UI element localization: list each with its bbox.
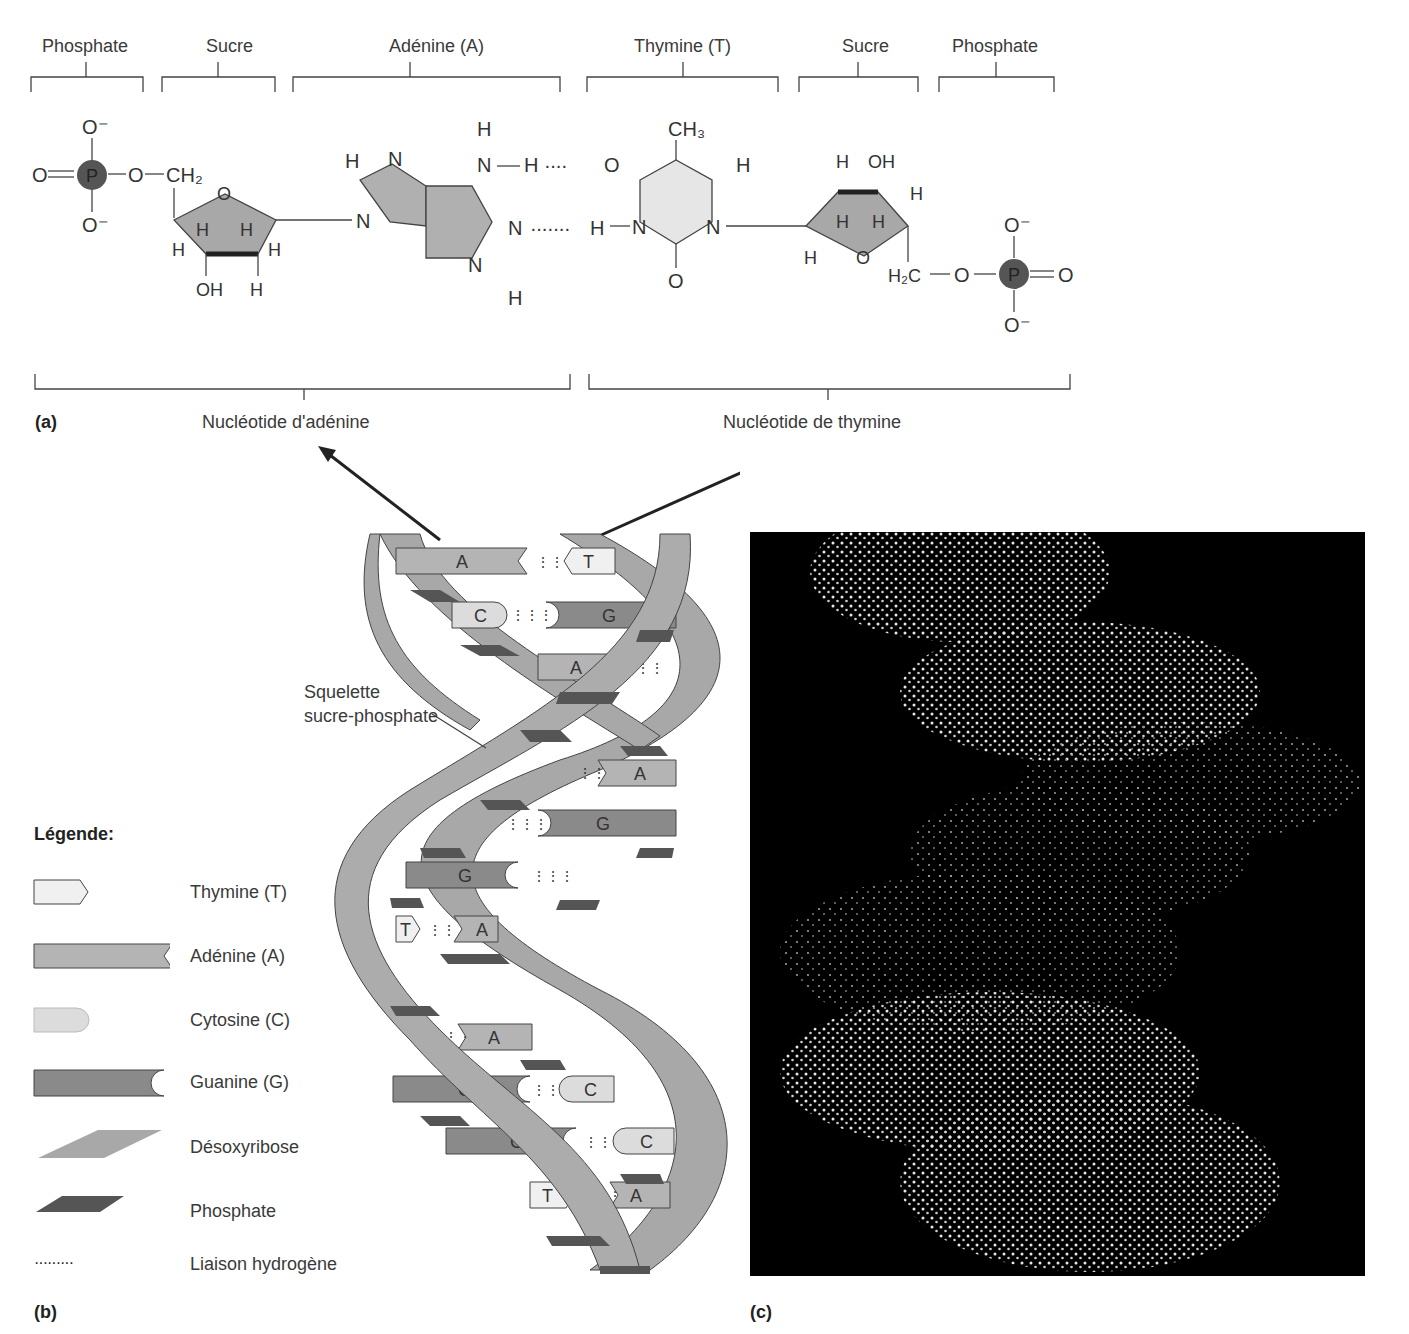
svg-text:A: A [476, 920, 488, 940]
deoxyribose-right: H OH H H H H O H₂C O [804, 152, 970, 286]
svg-text:H: H [804, 248, 817, 268]
svg-text:G: G [602, 606, 616, 626]
bottom-brackets [35, 374, 1070, 400]
svg-text:H: H [508, 287, 522, 309]
svg-text:G: G [596, 814, 610, 834]
svg-text:N: N [706, 216, 720, 238]
molecule-diagram: P O⁻ O⁻ O O CH₂ O H H H H OH H [0, 0, 1100, 400]
guanine-shape-icon [34, 1070, 164, 1096]
label-thymine-nucleotide: Nucléotide de thymine [723, 412, 901, 433]
svg-text:H: H [524, 154, 538, 176]
svg-text:T: T [400, 920, 411, 940]
svg-text:OH: OH [868, 152, 895, 172]
svg-text:H: H [872, 212, 885, 232]
svg-text:C: C [584, 1080, 597, 1100]
svg-text:H: H [736, 154, 750, 176]
legend-swatches: ········· [30, 870, 170, 1270]
svg-text:⋮⋮⋮: ⋮⋮⋮ [511, 607, 553, 623]
svg-text:O: O [32, 164, 48, 186]
svg-text:N: N [477, 154, 491, 176]
svg-text:A: A [488, 1028, 500, 1048]
cytosine-shape-icon [34, 1008, 89, 1032]
svg-text:A: A [570, 658, 582, 678]
legend-label-thymine: Thymine (T) [190, 882, 287, 903]
svg-text:O: O [856, 248, 870, 268]
svg-text:A: A [630, 1186, 642, 1206]
adenine-shape-icon [34, 944, 170, 968]
svg-text:⋮⋮⋮: ⋮⋮⋮ [506, 816, 548, 832]
svg-text:G: G [458, 866, 472, 886]
backbone-label-line2: sucre-phosphate [304, 706, 438, 727]
svg-text:H: H [590, 217, 604, 239]
svg-text:P: P [1008, 265, 1020, 285]
legend-label-guanine: Guanine (G) [190, 1072, 289, 1093]
svg-text:O⁻: O⁻ [82, 214, 109, 236]
phosphate-shape-icon [36, 1196, 124, 1212]
phosphate-group-right: P O⁻ O O⁻ [974, 214, 1074, 336]
svg-text:N: N [508, 217, 522, 239]
svg-text:O: O [1058, 264, 1074, 286]
thymine-molecule: CH₃ H N N O [610, 118, 806, 292]
legend-label-hydrogen-bond: Liaison hydrogène [190, 1254, 337, 1275]
hydrogen-bond-dots-icon: ········· [34, 1254, 73, 1270]
svg-text:O⁻: O⁻ [1004, 214, 1031, 236]
svg-text:H: H [250, 280, 263, 300]
svg-text:H: H [240, 220, 253, 240]
svg-text:⋮⋮⋮: ⋮⋮⋮ [532, 868, 574, 884]
svg-text:····: ···· [544, 154, 567, 176]
top-brackets [31, 62, 1054, 92]
legend-label-cytosine: Cytosine (C) [190, 1010, 290, 1031]
thymine-shape-icon [34, 880, 88, 904]
svg-text:O: O [668, 270, 684, 292]
svg-text:H: H [196, 220, 209, 240]
space-filling-dna-model [750, 532, 1365, 1276]
svg-text:·······: ······· [530, 217, 570, 239]
pointer-arrows [318, 442, 740, 540]
svg-text:T: T [542, 1186, 553, 1206]
panel-c-dna-model-image [750, 532, 1365, 1276]
svg-text:C: C [640, 1132, 653, 1152]
svg-text:H₂C: H₂C [888, 266, 921, 286]
svg-text:O: O [954, 264, 970, 286]
svg-text:OH: OH [196, 280, 223, 300]
svg-text:T: T [583, 552, 594, 572]
svg-text:P: P [86, 166, 98, 186]
legend-label-deoxyribose: Désoxyribose [190, 1137, 299, 1158]
svg-text:O: O [128, 164, 144, 186]
svg-text:H: H [477, 118, 491, 140]
deoxyribose-shape-icon [38, 1130, 162, 1158]
base-pair-6: G ⋮⋮⋮ [406, 862, 574, 888]
svg-text:O: O [217, 184, 231, 204]
svg-text:O⁻: O⁻ [82, 116, 109, 138]
svg-text:H: H [910, 184, 923, 204]
svg-text:N: N [356, 210, 370, 232]
deoxyribose-left: O H H H H OH H [172, 184, 352, 300]
base-pair-1: A ⋮⋮⋮ T [396, 548, 615, 574]
legend-label-adenine: Adénine (A) [190, 946, 285, 967]
base-pair-7: T ⋮⋮⋮ A [396, 916, 498, 942]
svg-text:N: N [632, 216, 646, 238]
legend-label-phosphate: Phosphate [190, 1201, 276, 1222]
svg-text:CH₃: CH₃ [668, 118, 705, 140]
svg-text:H: H [268, 240, 281, 260]
panel-c-tag: (c) [750, 1302, 772, 1323]
legend-title: Légende: [34, 824, 114, 845]
svg-text:H: H [836, 212, 849, 232]
svg-text:N: N [388, 148, 402, 170]
base-pair-5: ⋮⋮⋮ G [506, 810, 676, 836]
svg-text:H: H [172, 240, 185, 260]
svg-text:N: N [468, 254, 482, 276]
svg-text:H: H [345, 150, 359, 172]
svg-text:CH₂: CH₂ [166, 164, 203, 186]
panel-b-tag: (b) [34, 1302, 57, 1323]
svg-text:A: A [634, 764, 646, 784]
svg-text:C: C [474, 606, 487, 626]
adenine-molecule: H N N N N H N H H ···· O ······· H [345, 118, 620, 309]
svg-text:O⁻: O⁻ [1004, 314, 1031, 336]
svg-text:H: H [836, 152, 849, 172]
svg-text:A: A [456, 552, 468, 572]
backbone-label-line1: Squelette [304, 682, 380, 703]
svg-text:O: O [604, 154, 620, 176]
